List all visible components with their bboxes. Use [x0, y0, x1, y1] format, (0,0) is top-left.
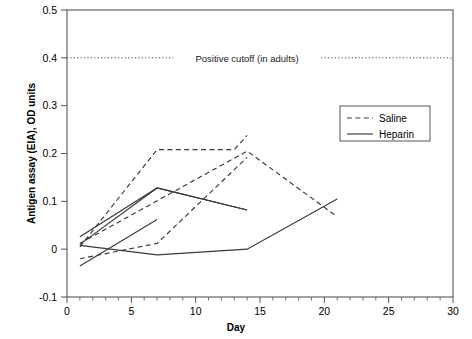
- series-line-heparin-3: [80, 199, 337, 255]
- x-tick-label: 0: [64, 305, 70, 317]
- y-tick-label: 0.4: [42, 52, 57, 64]
- series-line-heparin-4: [80, 188, 247, 244]
- y-tick-label: 0.1: [42, 195, 57, 207]
- x-tick-label: 20: [318, 305, 330, 317]
- x-tick-label: 5: [128, 305, 134, 317]
- line-chart: 051015202530 -0.100.10.20.30.40.5 Positi…: [0, 0, 472, 339]
- data-series: [80, 135, 337, 266]
- series-line-saline-3: [80, 151, 337, 243]
- chart-figure: 051015202530 -0.100.10.20.30.40.5 Positi…: [0, 0, 472, 339]
- x-axis-title: Day: [0, 322, 472, 333]
- y-tick-label: 0: [51, 243, 57, 255]
- x-tick-label: 10: [190, 305, 202, 317]
- cutoff-annotation-label: Positive cutoff (in adults): [195, 53, 298, 64]
- legend-label-saline: Saline: [379, 113, 407, 124]
- y-axis-ticks: -0.100.10.20.30.40.5: [39, 4, 67, 303]
- chart-legend: SalineHeparin: [340, 106, 430, 141]
- x-tick-label: 30: [447, 305, 459, 317]
- x-axis-ticks: 051015202530: [64, 297, 459, 317]
- y-tick-label: 0.2: [42, 147, 57, 159]
- legend-label-heparin: Heparin: [379, 129, 414, 140]
- y-tick-label: 0.3: [42, 99, 57, 111]
- x-tick-label: 15: [254, 305, 266, 317]
- series-line-saline-2: [80, 157, 247, 258]
- y-tick-label: -0.1: [39, 291, 57, 303]
- y-axis-title: Antigen assay (EIA), OD units: [26, 79, 37, 229]
- cutoff-line: Positive cutoff (in adults): [67, 53, 453, 64]
- y-tick-label: 0.5: [42, 4, 57, 16]
- series-line-heparin-2: [80, 220, 157, 266]
- x-tick-label: 25: [383, 305, 395, 317]
